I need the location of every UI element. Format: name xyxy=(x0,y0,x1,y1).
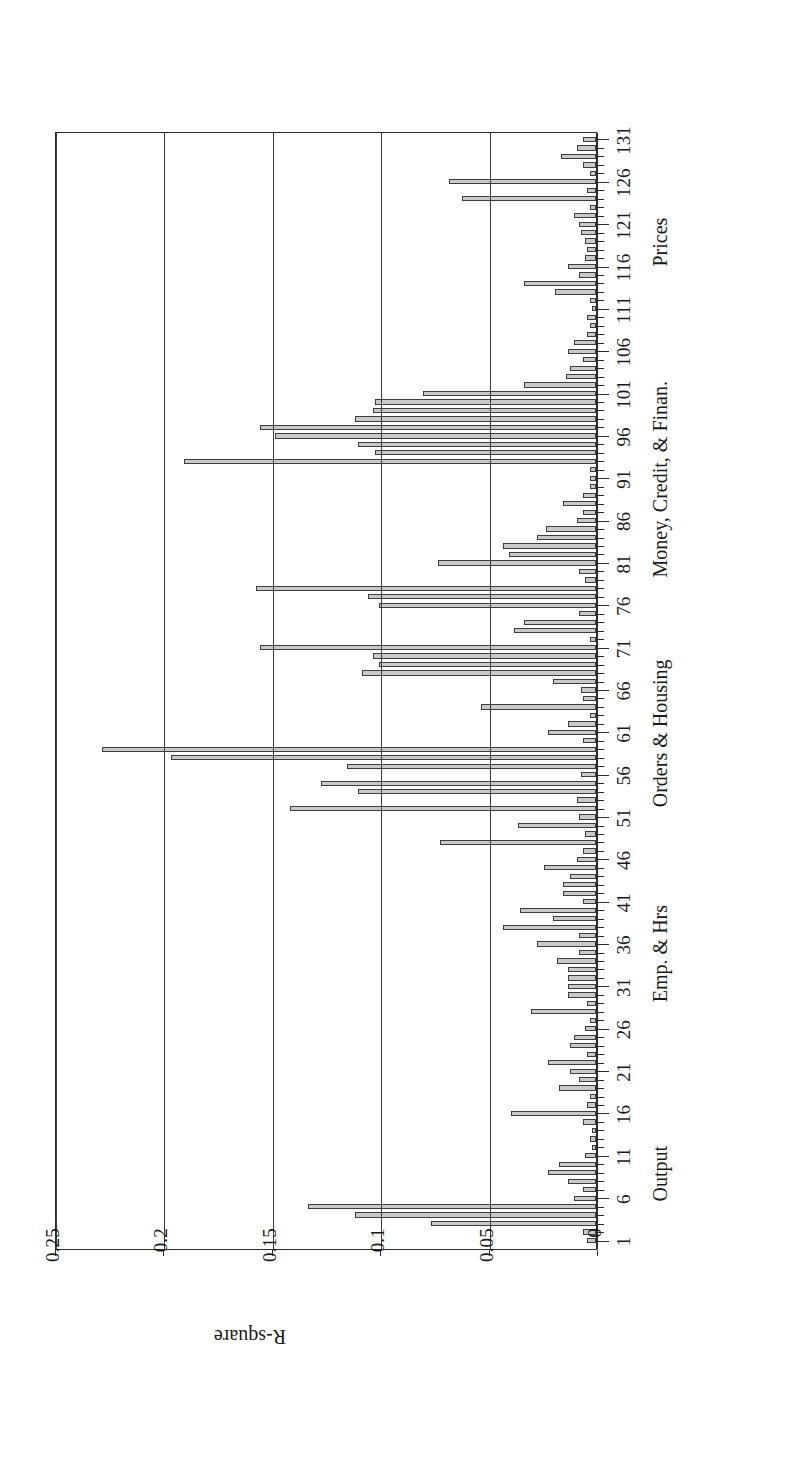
x-tick-mark-minor xyxy=(597,156,604,157)
bar xyxy=(373,408,596,413)
x-tick-mark-minor xyxy=(597,800,604,801)
bar xyxy=(568,992,596,997)
bar xyxy=(583,738,596,743)
bar xyxy=(559,1162,596,1167)
x-tick-mark-minor xyxy=(597,461,604,462)
bar xyxy=(581,772,596,777)
x-tick-mark-minor xyxy=(597,1215,604,1216)
x-tick-mark-minor xyxy=(597,368,604,369)
bar xyxy=(583,696,596,701)
bar xyxy=(375,399,596,404)
bar xyxy=(590,1094,597,1099)
x-tick-mark-minor xyxy=(597,1173,604,1174)
x-tick-mark-minor xyxy=(597,970,604,971)
x-tick-mark-minor xyxy=(597,444,604,445)
bar xyxy=(579,933,596,938)
x-tick-mark-minor xyxy=(597,1063,604,1064)
x-tick-mark-minor xyxy=(597,715,604,716)
x-tick-mark-major xyxy=(597,1198,609,1199)
x-tick-mark-minor xyxy=(597,165,604,166)
x-tick-mark-major xyxy=(597,648,609,649)
bar xyxy=(373,654,596,659)
bar xyxy=(590,298,597,303)
bar xyxy=(579,950,596,955)
x-tick-mark-major xyxy=(597,1241,609,1242)
x-tick-mark-minor xyxy=(597,792,604,793)
bar xyxy=(570,874,596,879)
x-tick-mark-minor xyxy=(597,936,604,937)
bar xyxy=(503,925,596,930)
bar xyxy=(102,747,596,752)
bar xyxy=(260,645,596,650)
x-tick-mark-minor xyxy=(597,1181,604,1182)
x-tick-mark-major xyxy=(597,224,609,225)
y-tick-label: 0.05 xyxy=(476,1228,498,1348)
bar xyxy=(375,450,596,455)
bar xyxy=(579,1077,596,1082)
bar xyxy=(587,1001,596,1006)
bar xyxy=(583,357,596,362)
bar xyxy=(563,891,596,896)
x-tick-mark-minor xyxy=(597,978,604,979)
bar xyxy=(585,1153,596,1158)
x-tick-mark-minor xyxy=(597,766,604,767)
bar xyxy=(546,526,596,531)
x-tick-mark-minor xyxy=(597,546,604,547)
x-tick-mark-major xyxy=(597,267,609,268)
bar xyxy=(581,230,596,235)
bar xyxy=(544,865,596,870)
x-tick-label: 36 xyxy=(613,923,635,967)
x-tick-mark-minor xyxy=(597,1020,604,1021)
bar xyxy=(557,958,596,963)
bar xyxy=(592,1128,596,1133)
x-tick-mark-minor xyxy=(597,597,604,598)
bar xyxy=(579,272,596,277)
x-tick-mark-minor xyxy=(597,419,604,420)
bar xyxy=(355,416,596,421)
x-tick-mark-minor xyxy=(597,385,604,386)
x-tick-mark-minor xyxy=(597,317,604,318)
bar xyxy=(590,637,597,642)
x-tick-mark-minor xyxy=(597,470,604,471)
x-tick-mark-minor xyxy=(597,334,604,335)
bar xyxy=(362,670,596,675)
x-tick-mark-minor xyxy=(597,377,604,378)
x-tick-label: 51 xyxy=(613,796,635,840)
x-tick-mark-major xyxy=(597,563,609,564)
x-tick-mark-minor xyxy=(597,783,604,784)
bar xyxy=(583,137,596,142)
x-tick-label: 26 xyxy=(613,1008,635,1052)
gridline xyxy=(381,133,382,1249)
x-tick-mark-major xyxy=(597,139,609,140)
x-tick-label: 81 xyxy=(613,542,635,586)
x-tick-label: 6 xyxy=(613,1177,635,1221)
bar xyxy=(568,264,596,269)
x-tick-mark-major xyxy=(597,521,609,522)
bar xyxy=(184,459,596,464)
x-tick-mark-minor xyxy=(597,360,604,361)
x-tick-mark-minor xyxy=(597,809,604,810)
x-tick-mark-major xyxy=(597,394,609,395)
bar xyxy=(358,789,596,794)
bar xyxy=(347,764,596,769)
bar xyxy=(321,781,596,786)
x-tick-label: 106 xyxy=(613,330,635,374)
x-tick-mark-minor xyxy=(597,724,604,725)
x-tick-label: 86 xyxy=(613,500,635,544)
bar xyxy=(579,814,596,819)
x-tick-mark-minor xyxy=(597,961,604,962)
bar xyxy=(579,222,596,227)
bar xyxy=(440,840,596,845)
gridline xyxy=(56,133,57,1249)
x-tick-mark-minor xyxy=(597,1088,604,1089)
x-tick-mark-minor xyxy=(597,173,604,174)
bar xyxy=(585,1026,596,1031)
bar xyxy=(579,611,596,616)
bar xyxy=(520,908,596,913)
bar xyxy=(524,281,596,286)
bar xyxy=(587,332,596,337)
x-tick-mark-minor xyxy=(597,834,604,835)
bar xyxy=(592,306,596,311)
x-tick-mark-minor xyxy=(597,876,604,877)
bar xyxy=(577,518,597,523)
